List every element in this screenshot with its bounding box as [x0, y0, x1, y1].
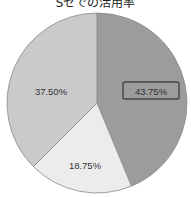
slice-label: 37.50% — [35, 86, 68, 97]
slice-label: 43.75% — [135, 86, 168, 97]
pie-chart: 43.75%18.75%37.50% — [0, 0, 191, 197]
slice-label: 18.75% — [69, 160, 102, 171]
